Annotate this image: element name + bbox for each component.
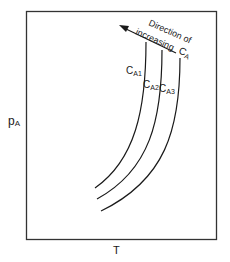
svg-text:CA: CA bbox=[177, 45, 193, 61]
plot-frame bbox=[27, 12, 217, 240]
direction-text-var: CA bbox=[177, 45, 193, 61]
curve-label-ca1: CA1 bbox=[126, 65, 142, 77]
y-axis-label: pA bbox=[8, 114, 21, 128]
x-axis-label: T bbox=[113, 244, 120, 256]
arrowhead-icon bbox=[119, 25, 129, 32]
diagram-canvas: CA1 CA2 CA3 Direction of increasing CA p… bbox=[0, 0, 230, 262]
curve-label-ca2: CA2 bbox=[143, 79, 159, 91]
curve-ca1 bbox=[95, 42, 146, 188]
curve-label-ca3: CA3 bbox=[159, 83, 175, 95]
